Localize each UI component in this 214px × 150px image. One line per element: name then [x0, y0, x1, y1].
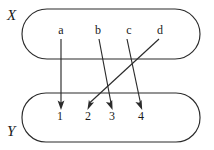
domain-element-c: c: [126, 23, 131, 37]
mapping-arrow-c-to-4: [127, 39, 142, 110]
codomain-element-1: 1: [57, 109, 63, 123]
domain-element-d: d: [157, 23, 163, 37]
domain-element-b: b: [95, 23, 101, 37]
domain-set-label: X: [6, 7, 17, 23]
diagram-canvas: X Y a b c d 1 2 3 4: [0, 0, 214, 150]
codomain-set-label: Y: [7, 123, 17, 139]
mapping-arrow-a-to-1: [58, 39, 65, 110]
codomain-element-4: 4: [138, 109, 144, 123]
domain-element-a: a: [58, 23, 64, 37]
mapping-arrow-d-to-2: [87, 39, 159, 110]
codomain-element-3: 3: [109, 109, 115, 123]
codomain-element-2: 2: [85, 109, 91, 123]
domain-set-outline: [22, 9, 200, 59]
mapping-arrow-b-to-3: [99, 39, 113, 110]
set-mapping-figure: X Y a b c d 1 2 3 4: [0, 0, 214, 150]
